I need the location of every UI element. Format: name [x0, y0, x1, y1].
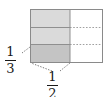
highlighted-product-cell [30, 44, 70, 63]
one-half-numerator: 1 [47, 70, 57, 84]
fraction-label-one-half: 1 2 [47, 70, 58, 97]
one-third-numerator: 1 [5, 45, 15, 59]
one-half-denominator: 2 [47, 86, 57, 97]
leader-line-one-half-right [60, 63, 70, 71]
fraction-area-model-figure: 1 3 1 2 [0, 0, 110, 97]
unshaded-right-column [70, 9, 103, 63]
one-third-denominator: 3 [5, 61, 15, 75]
leader-line-one-third [22, 47, 30, 53]
fraction-label-one-third: 1 3 [5, 45, 16, 75]
